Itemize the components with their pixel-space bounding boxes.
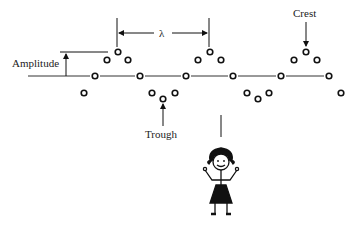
particle-circle (314, 57, 320, 63)
amplitude-indicator (60, 52, 108, 76)
particle-circle (338, 90, 344, 96)
amplitude-label: Amplitude (12, 57, 59, 69)
particle-circle (218, 57, 224, 63)
particle-circle (81, 90, 87, 96)
trough-label: Trough (145, 128, 177, 140)
particle-circle (255, 96, 261, 102)
particle-circle (244, 90, 250, 96)
particle-circle (137, 73, 143, 79)
particle-circle (160, 96, 166, 102)
particle-circle (291, 57, 297, 63)
wavelength-label: λ (159, 27, 165, 39)
particle-circle (125, 57, 131, 63)
particle-circle (183, 73, 189, 79)
particle-circle (326, 73, 332, 79)
particle-circle (115, 49, 121, 55)
particle-circle (278, 73, 284, 79)
wave-diagram: Amplitude λ Crest Trough (0, 0, 354, 229)
particle-circle (149, 90, 155, 96)
particle-circle (266, 90, 272, 96)
particle-circle (172, 90, 178, 96)
particle-circle (195, 57, 201, 63)
particle-circle (104, 57, 110, 63)
particle-circle (230, 73, 236, 79)
stick-figure-icon (203, 148, 238, 214)
particle-circle (207, 49, 213, 55)
particle-circle (303, 49, 309, 55)
crest-label: Crest (293, 7, 316, 19)
particle-circle (92, 73, 98, 79)
